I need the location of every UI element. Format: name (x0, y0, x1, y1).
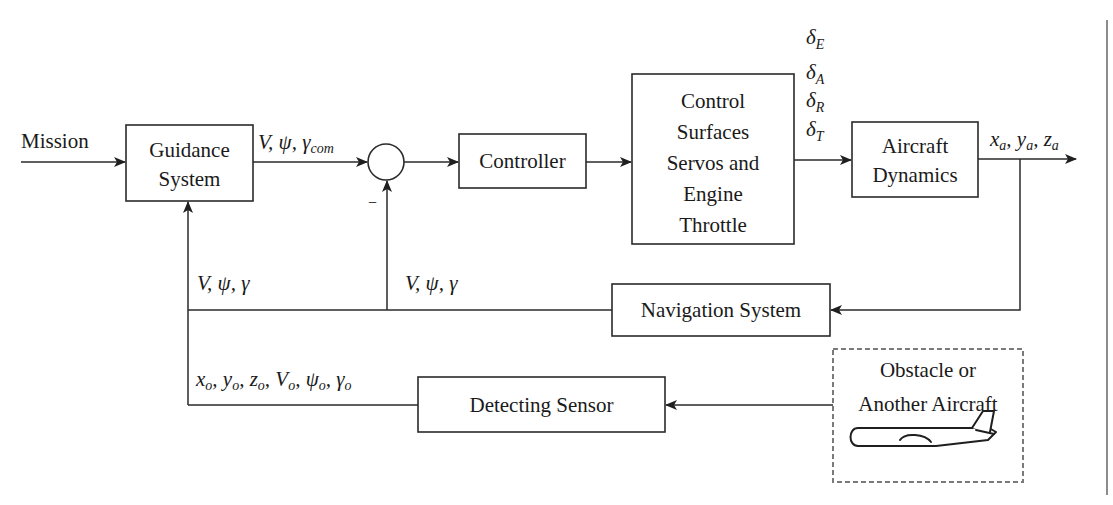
actuators-label-line3: Servos and (667, 151, 760, 175)
actuators-label-line1: Control (681, 89, 745, 113)
navigation-label: Navigation System (641, 298, 801, 322)
aircraft-position-label: xa, ya, za (989, 127, 1059, 153)
guidance-label-line1: Guidance (149, 138, 229, 162)
detecting-sensor-block: Detecting Sensor (418, 377, 665, 432)
command-signal-label: V, ψ, γcom (258, 130, 334, 156)
detecting-sensor-label: Detecting Sensor (469, 393, 613, 417)
obstacle-block: Obstacle or Another Aircraft (833, 349, 1023, 482)
guidance-feedback-label: V, ψ, γ (197, 271, 250, 295)
controller-label: Controller (479, 149, 565, 173)
actuators-label-line5: Throttle (679, 213, 747, 237)
navigation-system-block: Navigation System (612, 284, 830, 336)
aircraft-dynamics-label-line1: Aircraft (882, 134, 949, 158)
actuators-label-line2: Surfaces (677, 120, 749, 144)
delta-e-label: δE (806, 25, 825, 52)
obstacle-state-label: xo, yo, zo, Vo, ψo, γo (195, 367, 352, 393)
block-diagram: Guidance System Controller Control Surfa… (0, 0, 1113, 505)
aircraft-dynamics-block: Aircraft Dynamics (852, 122, 978, 197)
aircraft-dynamics-label-line2: Dynamics (872, 163, 957, 187)
actuators-label-line4: Engine (683, 182, 742, 206)
sum-feedback-label: V, ψ, γ (405, 271, 458, 295)
obstacle-label-line2: Another Aircraft (858, 392, 998, 416)
actuators-block: Control Surfaces Servos and Engine Throt… (632, 74, 794, 244)
control-inputs-labels: δE δA δR δT (806, 25, 825, 144)
mission-label: Mission (21, 129, 89, 153)
summing-junction (368, 144, 404, 180)
controller-block: Controller (459, 134, 586, 188)
delta-a-label: δA (806, 60, 825, 87)
delta-r-label: δR (806, 88, 825, 115)
guidance-system-block: Guidance System (126, 125, 253, 201)
guidance-label-line2: System (159, 167, 221, 191)
delta-t-label: δT (806, 117, 825, 144)
summing-minus-sign: − (368, 194, 377, 211)
obstacle-label-line1: Obstacle or (880, 358, 976, 382)
